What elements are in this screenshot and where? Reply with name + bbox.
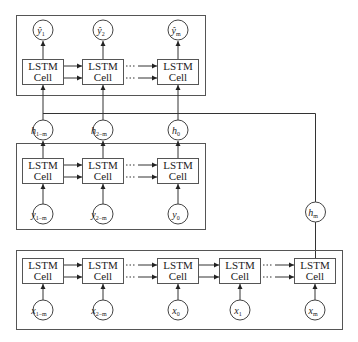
lstm-cell: LSTM Cell: [83, 60, 124, 85]
input-node: y2−m: [90, 204, 113, 224]
lstm-cell: LSTM Cell: [295, 259, 336, 284]
output-node: ŷ1: [33, 20, 53, 40]
svg-text:Cell: Cell: [169, 270, 187, 282]
lstm-cell: LSTM Cell: [23, 259, 64, 284]
lstm-cell: LSTM Cell: [158, 159, 199, 184]
hidden-node: h0: [168, 120, 188, 140]
svg-text:Cell: Cell: [169, 71, 187, 83]
input-node: x2−m: [90, 300, 113, 320]
lstm-cell: LSTM Cell: [158, 60, 199, 85]
hidden-node: h2−m: [91, 120, 113, 140]
middle-block: LSTM Cell LSTM Cell LSTM Cell y1−m: [17, 141, 206, 230]
svg-text:Cell: Cell: [169, 170, 187, 182]
svg-text:Cell: Cell: [34, 71, 52, 83]
input-node: x1−m: [30, 300, 53, 320]
input-node: y1−m: [30, 204, 53, 224]
svg-text:Cell: Cell: [94, 71, 112, 83]
svg-text:Cell: Cell: [94, 170, 112, 182]
lstm-cell: LSTM Cell: [220, 259, 261, 284]
lstm-cell: LSTM Cell: [23, 60, 64, 85]
lstm-cell: LSTM Cell: [83, 259, 124, 284]
output-node: ŷm: [168, 20, 188, 40]
svg-text:Cell: Cell: [34, 270, 52, 282]
lstm-cell: LSTM Cell: [158, 259, 199, 284]
input-node: y0: [168, 204, 188, 224]
svg-text:Cell: Cell: [231, 270, 249, 282]
lstm-cell: LSTM Cell: [83, 159, 124, 184]
svg-text:Cell: Cell: [94, 270, 112, 282]
lstm-cell: LSTM Cell: [23, 159, 64, 184]
hidden-node: h1−m: [31, 120, 53, 140]
input-node: xm: [305, 300, 325, 320]
input-node: x1: [230, 300, 250, 320]
output-node: ŷ2: [93, 20, 113, 40]
input-node: x0: [168, 300, 188, 320]
svg-text:Cell: Cell: [34, 170, 52, 182]
lstm-diagram: LSTM Cell LSTM Cell LSTM Cell ŷ1: [0, 0, 358, 342]
final-state-node: hm: [306, 202, 326, 222]
decoder-block: LSTM Cell LSTM Cell LSTM Cell ŷ1: [17, 16, 206, 96]
encoder-block: LSTM Cell LSTM Cell LSTM Cell LSTM Cell …: [17, 251, 343, 330]
svg-text:Cell: Cell: [306, 270, 324, 282]
